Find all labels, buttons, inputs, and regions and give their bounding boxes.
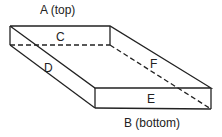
edge-front-bottom <box>95 108 211 109</box>
label-top: A (top) <box>40 4 75 16</box>
hidden-edge-right-bottom <box>110 45 211 109</box>
label-bottom: B (bottom) <box>124 117 180 129</box>
label-c: C <box>56 31 65 43</box>
label-f: F <box>150 58 157 70</box>
label-d: D <box>44 62 53 74</box>
box-diagram <box>0 0 222 137</box>
edge-left-bottom <box>10 45 95 108</box>
label-e: E <box>147 93 155 105</box>
